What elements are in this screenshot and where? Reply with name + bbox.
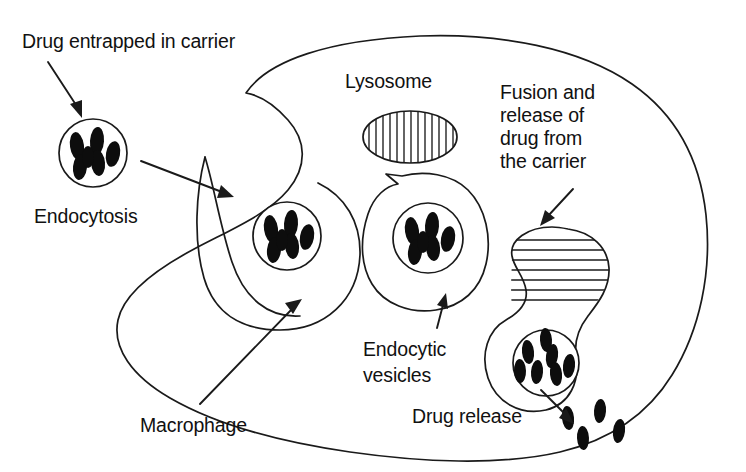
arrow-drug-entrapped: [48, 62, 82, 118]
macrophage-diagram-svg: Drug entrapped in carrier Endocytosis Ma…: [0, 0, 746, 472]
label-fusion-line3: drug from: [500, 127, 582, 149]
arrow-fusion: [540, 189, 573, 226]
label-drug-release: Drug release: [412, 405, 522, 427]
lysosome: [363, 108, 457, 166]
fusion-body: [485, 227, 618, 411]
released-drug-granules: [561, 399, 627, 451]
free-carrier: [59, 119, 127, 187]
arrow-macrophage: [200, 299, 302, 404]
endocytic-vesicle-1: [197, 157, 360, 330]
label-drug-entrapped-in-carrier: Drug entrapped in carrier: [22, 30, 236, 52]
label-fusion-line1: Fusion and: [500, 81, 595, 103]
label-endocytic-line1: Endocytic: [363, 338, 447, 360]
label-endocytosis: Endocytosis: [34, 205, 138, 227]
diagram-canvas: Drug entrapped in carrier Endocytosis Ma…: [0, 0, 746, 472]
label-fusion-line2: release of: [500, 104, 585, 126]
label-lysosome: Lysosome: [345, 70, 432, 92]
label-fusion-line4: the carrier: [500, 150, 587, 172]
endocytic-vesicle-2: [362, 173, 488, 311]
arrow-endocytosis: [141, 161, 234, 198]
label-macrophage: Macrophage: [140, 414, 247, 436]
label-endocytic-line2: vesicles: [363, 364, 432, 386]
